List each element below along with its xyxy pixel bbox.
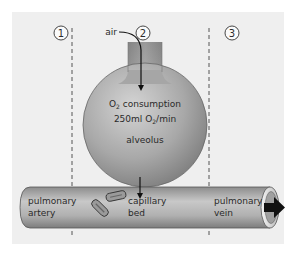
air-label: air [105,27,117,37]
zone-number-2-text: 2 [140,28,146,39]
zone-number-2: 2 [136,26,150,40]
zone-number-3-text: 3 [229,28,235,39]
blood-vessel [20,187,279,228]
zone-number-1: 1 [54,26,68,40]
alveolar-oxygen-uptake-diagram: 1 2 3 air O2 consumption 250ml O2/min al… [0,0,296,256]
o2-consumption-rate: 250ml O2/min [114,114,176,125]
zone-number-3: 3 [225,26,239,40]
o2-consumption-label: O2 consumption [109,99,181,110]
zone-number-1-text: 1 [58,28,64,39]
alveolus-label: alveolus [126,135,164,145]
